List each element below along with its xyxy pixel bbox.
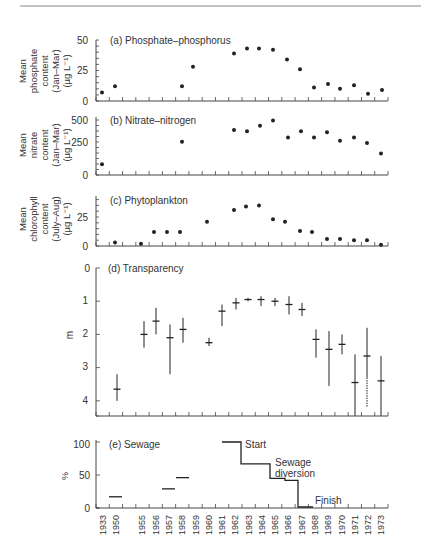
x-tick-label: 1967 [297,515,307,535]
data-point [379,152,383,156]
data-point [312,86,316,90]
x-tick-label: 1956 [151,515,161,535]
data-point [232,208,236,212]
x-tick-label: 1969 [323,515,333,535]
panel-a-title: (a) Phosphate–phosphorus [110,35,231,46]
tick-label: 50 [77,35,89,46]
svg-text:Meanchlorophyllcontent(July–Au: Meanchlorophyllcontent(July–Aug)(µg L⁻¹) [17,196,72,241]
data-point [180,140,184,144]
x-tick-label: 1959 [191,515,201,535]
annotation-diversion: diversion [275,468,315,479]
tick-label: 500 [71,115,88,126]
data-point [379,243,383,247]
panel-a-axes [96,40,388,101]
panel-a-phosphate: Meanphosphatecontent(Jan–Mar)(µg L⁻¹) 50… [17,35,388,107]
data-point [232,51,236,55]
data-point [178,230,182,234]
data-point [380,88,384,92]
annotation-start: Start [245,439,266,450]
data-point [244,205,248,209]
data-point [205,220,209,224]
tick-label: 50 [79,470,91,481]
tick-label: 3 [82,361,88,372]
data-point [165,230,169,234]
panel-a-points [100,47,384,96]
data-point [113,241,117,245]
data-point [285,58,289,62]
panel-d-title: (d) Transparency [108,263,184,274]
x-tick-label: 1958 [177,515,187,535]
data-point [257,47,261,51]
data-point [338,237,342,241]
x-tick-label: 1964 [257,515,267,535]
tick-label: 0 [82,170,88,181]
panel-e-axes [96,440,388,508]
data-point [258,124,262,128]
data-point [338,139,342,143]
data-point [352,83,356,87]
annotation-sewage: Sewage [275,457,312,468]
data-point [283,220,287,224]
panel-c-ylabel: Meanchlorophyllcontent(July–Aug)(µg L⁻¹) [17,196,72,241]
x-tick-label: 1968 [310,515,320,535]
x-tick-label: 1966 [283,515,293,535]
data-point [271,118,275,122]
x-tick-label: 1933 [98,515,108,535]
tick-label: 4 [82,395,88,406]
tick-label: 0 [82,241,88,252]
panel-b-title: (b) Nitrate–nitrogen [110,115,196,126]
tick-label: 100 [73,439,90,450]
x-axis-year-labels: 1933195019551956195719581959196019611962… [98,515,387,535]
data-point [152,230,156,234]
tick-label: 25 [77,212,89,223]
x-tick-label: 1965 [270,515,280,535]
tick-label: 25 [77,65,89,76]
data-point [338,87,342,91]
data-point [232,128,236,132]
panel-c-title: (c) Phytoplankton [110,195,188,206]
data-point [352,136,356,140]
tick-label: 1 [82,295,88,306]
data-point [312,136,316,140]
panel-e-ylabel: % [60,472,70,480]
tick-label: 0 [84,503,90,514]
tick-label: 0 [84,263,90,274]
x-tick-label: 1970 [337,515,347,535]
annotation-finish: Finish [315,495,342,506]
panel-b-ylabel: Meannitratecontent(Jan–Mar)(µg L⁻¹) [17,123,72,166]
data-point [245,129,249,133]
x-tick-label: 1971 [350,515,360,535]
panel-e-title: (e) Sewage [109,439,161,450]
panel-d-ylabel: m [64,331,75,339]
panel-d-errorbars [114,296,385,416]
x-tick-label: 1972 [363,515,373,535]
x-tick-label: 1962 [230,515,240,535]
x-tick-label: 1963 [244,515,254,535]
x-tick-label: 1950 [111,515,121,535]
data-point [299,129,303,133]
figure: Meanphosphatecontent(Jan–Mar)(µg L⁻¹) 50… [0,0,421,554]
panel-b-nitrate: Meannitratecontent(Jan–Mar)(µg L⁻¹) 500 … [17,115,388,181]
panel-d-transparency: m 0 1 2 3 4 (d) Transparency [64,263,388,416]
x-tick-label: 1960 [204,515,214,535]
x-tick-label: 1957 [164,515,174,535]
tick-label: 2 [82,328,88,339]
svg-text:Meanphosphatecontent(Jan–Mar)(: Meanphosphatecontent(Jan–Mar)(µg L⁻¹) [17,49,72,93]
tick-label: 250 [71,137,88,148]
panel-c-phytoplankton: Meanchlorophyllcontent(July–Aug)(µg L⁻¹)… [17,195,388,252]
data-point [100,162,104,166]
x-tick-label: 1961 [217,515,227,535]
panel-e-sewage: % 100 50 0 (e) Sewage Start Sewage diver… [60,439,388,535]
panel-d-axes [96,268,388,416]
tick-label: 0 [82,96,88,107]
panel-a-ylabel: Meanphosphatecontent(Jan–Mar)(µg L⁻¹) [17,49,72,93]
data-point [180,84,184,88]
data-point [286,136,290,140]
data-point [139,242,143,246]
data-point [191,65,195,69]
data-point [100,90,104,94]
data-point [245,47,249,51]
data-point [271,217,275,221]
x-tick-label: 1973 [376,515,386,535]
data-point [310,230,314,234]
